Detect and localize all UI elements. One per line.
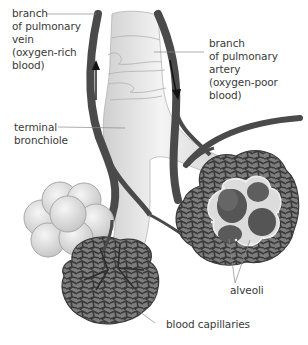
label-blood-capillaries: blood capillaries	[166, 318, 250, 331]
label-pulmonary-vein: branch of pulmonary vein (oxygen-rich bl…	[12, 7, 81, 72]
label-terminal-bronchiole: terminal bronchiole	[14, 121, 68, 147]
label-pulmonary-artery: branch of pulmonary artery (oxygen-poor …	[209, 37, 278, 102]
label-alveoli: alveoli	[230, 284, 264, 297]
